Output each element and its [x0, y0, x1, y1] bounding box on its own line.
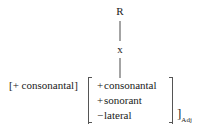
edge-root-to-x — [120, 21, 121, 41]
matrix-row: +sonorant — [97, 93, 163, 108]
matrix-row: −lateral — [97, 108, 163, 123]
matrix-open-bracket-icon — [88, 77, 94, 124]
tree-root-node: R — [116, 6, 123, 17]
category-bracket: ]Adj — [177, 107, 192, 127]
feature-tree-diagram: R x [+ consonantal] +consonantal +sonora… — [0, 0, 206, 128]
category-bracket-subscript: Adj — [181, 116, 192, 124]
feature-name: lateral — [104, 109, 131, 121]
matrix-row: +consonantal — [97, 78, 163, 93]
feature-name: sonorant — [104, 94, 142, 106]
feature-name: consonantal — [104, 79, 157, 91]
feature-sign: + — [97, 93, 104, 108]
feature-matrix: +consonantal +sonorant −lateral — [88, 77, 173, 124]
edge-x-to-matrix — [120, 58, 121, 78]
left-feature-bracket: [+ consonantal] — [9, 79, 78, 92]
matrix-rows: +consonantal +sonorant −lateral — [94, 77, 167, 124]
feature-sign: + — [97, 78, 104, 93]
tree-skeletal-slot-node: x — [117, 44, 123, 55]
matrix-close-bracket-icon — [167, 77, 173, 124]
feature-sign: − — [97, 108, 104, 123]
